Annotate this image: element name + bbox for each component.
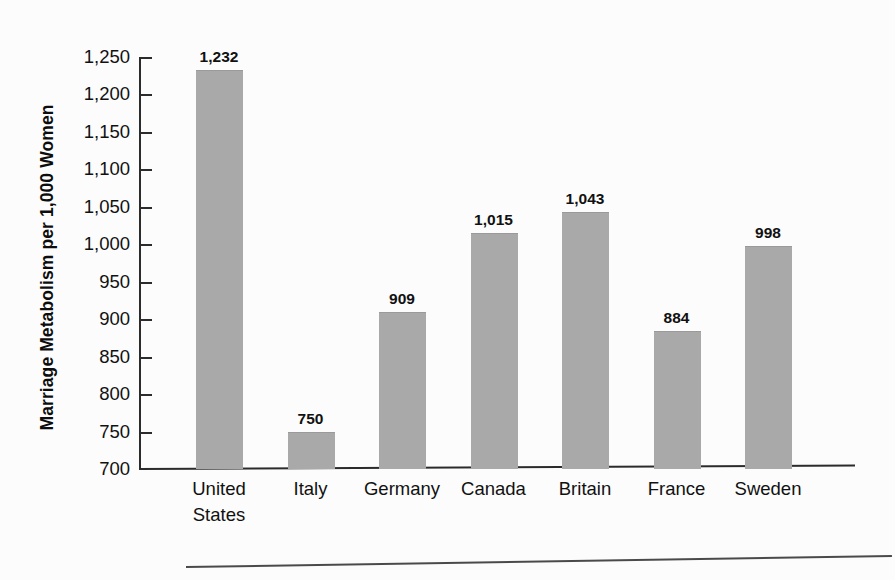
bar-group[interactable]: 1,043 xyxy=(553,57,617,469)
bar-rect[interactable] xyxy=(471,233,518,469)
y-axis-tick-label-group: 7007508008509009501,0001,0501,1001,1501,… xyxy=(58,47,130,479)
y-axis-tick-label: 1,100 xyxy=(58,159,130,179)
bar-rect[interactable] xyxy=(379,312,426,469)
bar-group[interactable]: 1,015 xyxy=(462,57,526,469)
y-axis-tick-mark xyxy=(141,169,152,171)
y-axis-tick-label: 750 xyxy=(58,422,130,442)
bottom-divider-rule xyxy=(186,555,892,568)
bar-chart-figure: Marriage Metabolism per 1,000 Women 7007… xyxy=(0,0,895,580)
bar-group[interactable]: 750 xyxy=(279,57,343,469)
y-axis-tick-mark xyxy=(141,94,152,96)
bar-group[interactable]: 998 xyxy=(736,57,800,469)
bar-value-label: 1,232 xyxy=(178,48,260,66)
y-axis-tick-label: 1,150 xyxy=(58,122,130,142)
y-axis-tick-label: 700 xyxy=(58,459,130,479)
bar-rect[interactable] xyxy=(654,331,701,469)
x-axis-tick-label: Sweden xyxy=(713,476,823,502)
y-axis-tick-label: 950 xyxy=(58,272,130,292)
y-axis-tick-mark xyxy=(141,319,152,321)
bar-value-label: 909 xyxy=(361,290,443,308)
x-axis-tick-label-group: United StatesItalyGermanyCanadaBritainFr… xyxy=(141,476,855,546)
y-axis-tick-mark xyxy=(141,432,152,434)
bar-group[interactable]: 884 xyxy=(645,57,709,469)
y-axis-tick-label: 1,200 xyxy=(58,84,130,104)
y-axis-tick-mark xyxy=(141,57,152,59)
y-axis-title: Marriage Metabolism per 1,000 Women xyxy=(37,58,58,478)
y-axis-tick-mark xyxy=(141,244,152,246)
bar-group[interactable]: 909 xyxy=(370,57,434,469)
bar-value-label: 1,015 xyxy=(453,211,535,229)
y-axis-tick-mark xyxy=(141,282,152,284)
bar-rect[interactable] xyxy=(562,212,609,469)
bar-value-label: 884 xyxy=(636,309,718,327)
bar-rect[interactable] xyxy=(196,70,243,469)
bar-value-label: 998 xyxy=(727,224,809,242)
y-axis-tick-mark xyxy=(141,207,152,209)
y-axis-tick-mark xyxy=(141,357,152,359)
bar-value-label: 1,043 xyxy=(544,190,626,208)
y-axis-tick-mark xyxy=(141,394,152,396)
plot-area: 1,2327509091,0151,043884998 xyxy=(141,57,855,469)
bar-rect[interactable] xyxy=(288,432,335,469)
bar-value-label: 750 xyxy=(270,410,352,428)
y-axis-tick-label: 900 xyxy=(58,309,130,329)
y-axis-tick-label: 850 xyxy=(58,347,130,367)
y-axis-tick-label: 800 xyxy=(58,384,130,404)
bar-rect[interactable] xyxy=(745,246,792,469)
y-axis-tick-label: 1,050 xyxy=(58,197,130,217)
bar-group[interactable]: 1,232 xyxy=(187,57,251,469)
y-axis-tick-label: 1,250 xyxy=(58,47,130,67)
y-axis-tick-label: 1,000 xyxy=(58,234,130,254)
y-axis-tick-mark xyxy=(141,132,152,134)
